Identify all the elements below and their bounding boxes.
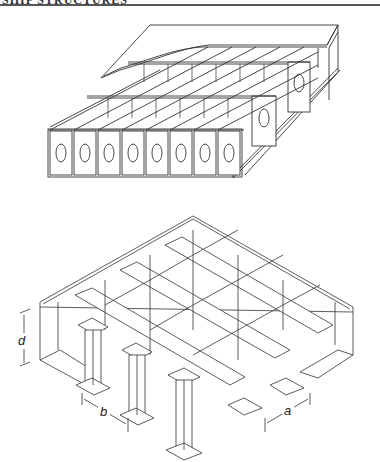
figure-grillage: d b a [0,205,380,462]
dimension-lines [20,309,310,432]
front-row-cells [48,129,242,177]
page-header: SHIP STRUCTURES [0,0,380,5]
dimension-label-b: b [100,404,107,419]
dimension-label-d: d [18,333,26,348]
stiffened-panel-drawing [0,20,380,190]
dimension-label-a: a [284,403,291,418]
grillage-drawing: d b a [0,205,380,462]
header-rule [0,4,380,6]
figure-stiffened-panel [0,20,380,190]
